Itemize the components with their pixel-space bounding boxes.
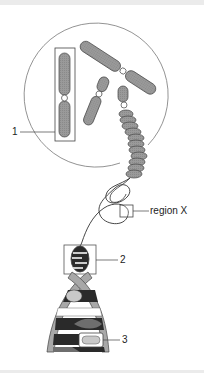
chromosome-2 <box>78 39 158 96</box>
helix-segment <box>71 246 89 272</box>
label-1: 1 <box>12 127 18 137</box>
chromosome-1 <box>59 53 70 137</box>
region-x-box <box>120 205 133 217</box>
dna-chromosome-diagram <box>0 0 204 373</box>
chromosome-3 <box>82 75 110 126</box>
chromosome-uncoiling <box>118 86 147 178</box>
label-2: 2 <box>120 255 126 265</box>
label-region-x: region X <box>150 206 187 216</box>
label-3: 3 <box>122 335 128 345</box>
